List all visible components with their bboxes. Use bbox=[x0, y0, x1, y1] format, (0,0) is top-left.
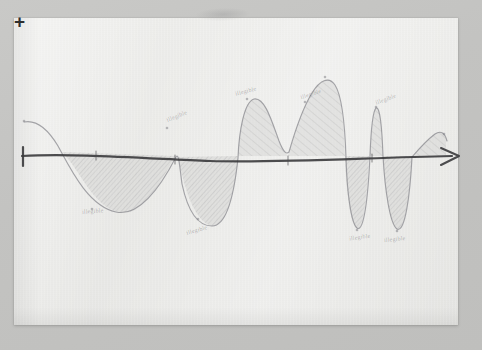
registration-plus-mark: + bbox=[14, 12, 25, 31]
sketch-drawing bbox=[0, 0, 482, 350]
screenshot-root: + illegible illegible illegible illegibl… bbox=[0, 0, 482, 350]
lobe-peak-8 bbox=[412, 132, 446, 156]
lobe-trough-7 bbox=[383, 156, 412, 229]
lobe-trough-2 bbox=[178, 156, 238, 226]
lobe-peak-6 bbox=[370, 108, 383, 156]
lobe-peak-3 bbox=[238, 99, 288, 156]
